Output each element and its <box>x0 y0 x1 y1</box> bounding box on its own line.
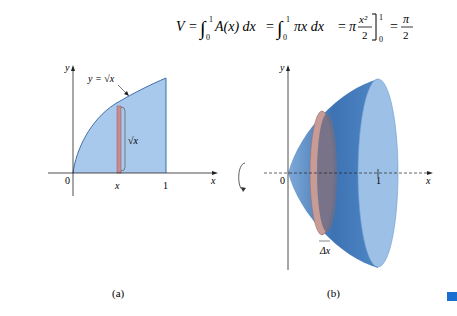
thickness-label: Δx <box>319 245 331 256</box>
svg-text:x: x <box>425 175 431 186</box>
svg-text:0: 0 <box>280 175 285 186</box>
caption-b: (b) <box>327 287 340 300</box>
svg-text:y: y <box>279 62 285 73</box>
figure-b: y x 0 1 Δx (b) <box>0 0 457 316</box>
end-marker <box>447 292 457 301</box>
svg-text:1: 1 <box>376 175 381 186</box>
